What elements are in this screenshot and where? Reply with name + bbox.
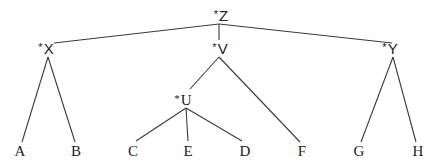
tree-diagram: [0, 0, 437, 163]
node-x-label: X: [44, 40, 54, 57]
leaf-g: G: [354, 144, 365, 159]
node-z-label: Z: [219, 7, 228, 24]
leaf-e: E: [183, 144, 192, 159]
node-x-marker: *: [38, 41, 42, 53]
node-u-label: U: [181, 92, 192, 108]
node-z: *Z: [214, 8, 228, 23]
edge-u-e: [186, 108, 188, 141]
node-y-label: Y: [388, 40, 398, 57]
node-v-label: V: [218, 40, 228, 57]
edge-z-x: [54, 24, 219, 43]
node-u-marker: *: [174, 92, 180, 104]
edge-v-u: [190, 57, 219, 89]
edge-z-y: [219, 24, 392, 43]
edge-u-d: [186, 108, 242, 141]
node-u: *U: [174, 93, 191, 108]
leaf-h: H: [413, 144, 424, 159]
edge-u-c: [136, 108, 186, 141]
leaf-a: A: [15, 144, 26, 159]
node-z-marker: *: [214, 8, 218, 20]
leaf-b: B: [71, 144, 81, 159]
edge-x-a: [22, 57, 48, 142]
node-y: *Y: [382, 41, 397, 56]
node-v-marker: *: [212, 41, 216, 53]
leaf-f: F: [298, 144, 306, 159]
node-x: *X: [38, 41, 53, 56]
edge-y-h: [393, 57, 416, 142]
edge-x-b: [48, 57, 75, 142]
leaf-c: C: [128, 144, 138, 159]
edge-v-f: [219, 57, 300, 142]
edge-y-g: [361, 57, 393, 142]
leaf-d: D: [240, 144, 251, 159]
node-y-marker: *: [382, 41, 386, 53]
node-v: *V: [212, 41, 227, 56]
